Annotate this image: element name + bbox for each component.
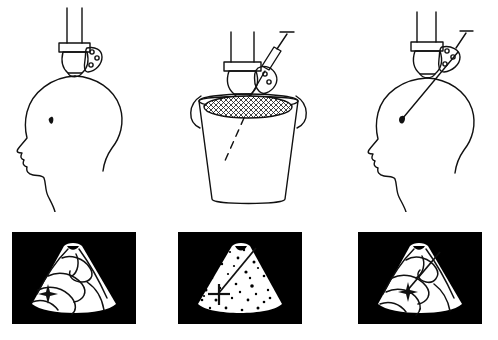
transducer-collar [224,62,261,71]
head-profile-back [427,78,474,173]
scan-b-water-bath-sector [178,232,302,324]
guide-hole-icon [89,63,93,67]
guide-hole-icon [445,49,449,53]
transducer-body [413,51,441,74]
needle-shaft [403,52,458,118]
transducer-collar [411,42,443,51]
lesion-marker [49,117,54,124]
panel-c-needle-in-head [332,0,498,212]
head-profile [17,76,75,212]
scan-c-brain-sector-with-needle [358,232,482,324]
syringe-plunger-rod [456,33,466,48]
figure-root [0,0,498,340]
guide-hole-icon [267,80,271,84]
projected-needle-path-dashed [224,118,244,163]
water-surface-hatch [204,96,292,118]
scan-a-brain-sector [12,232,136,324]
panel-a-transducer-on-head [0,0,166,212]
syringe-plunger-rod [277,34,287,49]
guide-hole-icon [95,56,99,60]
panel-b-water-bath [166,0,332,212]
lesion-marker [399,116,405,124]
head-profile-back [75,76,122,171]
guide-hole-icon [90,50,94,54]
head-profile [368,78,427,212]
